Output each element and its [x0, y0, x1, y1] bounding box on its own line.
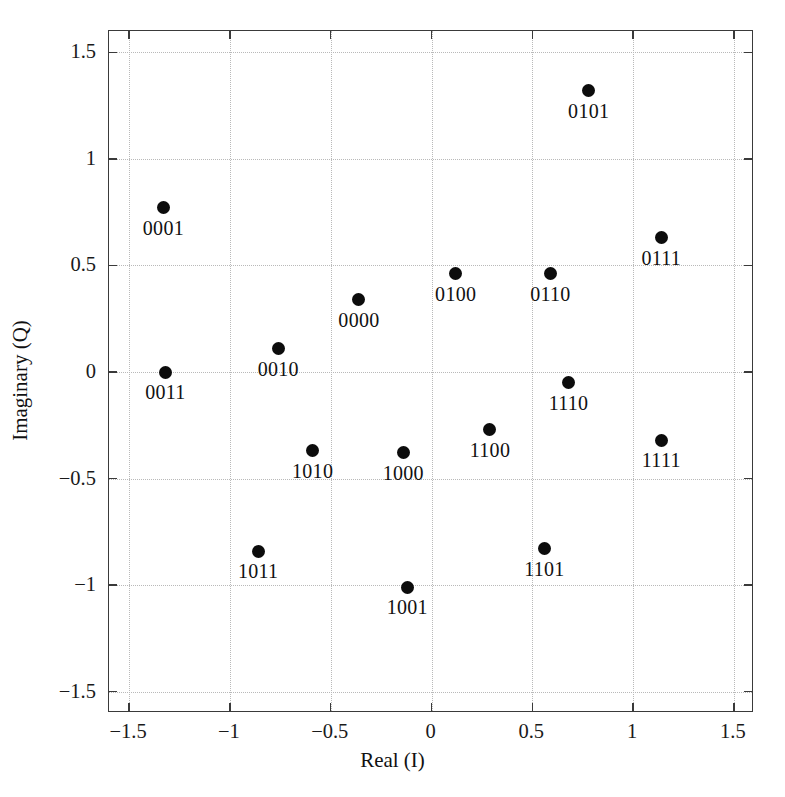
- data-point: [655, 434, 668, 447]
- x-axis-tick: [229, 703, 230, 711]
- x-axis-tick: [532, 703, 533, 711]
- data-point-label: 1001: [387, 596, 428, 619]
- gridline-horizontal: [109, 52, 752, 53]
- y-axis-tick: [109, 158, 117, 159]
- data-point-label: 1101: [524, 558, 564, 581]
- x-axis-tick: [431, 31, 432, 39]
- x-tick-label: 1: [627, 720, 637, 743]
- y-axis-tick: [109, 265, 117, 266]
- plot-area: 0101000101110100011000000010001111101100…: [108, 30, 753, 712]
- data-point: [401, 581, 414, 594]
- data-point: [582, 84, 595, 97]
- data-point: [538, 542, 551, 555]
- data-point-label: 1111: [642, 449, 681, 472]
- data-point: [562, 376, 575, 389]
- gridline-vertical: [230, 31, 231, 711]
- x-axis-tick: [128, 31, 129, 39]
- y-axis-tick: [744, 478, 752, 479]
- gridline-vertical: [432, 31, 433, 711]
- data-point-label: 1000: [383, 462, 424, 485]
- y-axis-tick: [744, 265, 752, 266]
- x-axis-tick: [532, 31, 533, 39]
- x-tick-label: 0: [425, 720, 435, 743]
- data-point: [306, 444, 319, 457]
- data-point-label: 0110: [530, 283, 570, 306]
- x-axis-tick: [330, 31, 331, 39]
- y-axis-tick: [744, 691, 752, 692]
- data-point: [655, 231, 668, 244]
- data-point-label: 0000: [338, 309, 379, 332]
- y-axis-tick: [109, 691, 117, 692]
- data-point-label: 1100: [470, 439, 510, 462]
- data-point-label: 0011: [145, 381, 185, 404]
- gridline-horizontal: [109, 372, 752, 373]
- y-axis-tick: [744, 371, 752, 372]
- x-axis-tick: [632, 31, 633, 39]
- data-point: [159, 366, 172, 379]
- y-axis-tick: [744, 158, 752, 159]
- x-axis-tick: [128, 703, 129, 711]
- y-axis-tick: [109, 52, 117, 53]
- gridline-horizontal: [109, 479, 752, 480]
- y-axis-tick: [109, 584, 117, 585]
- x-axis-title: Real (I): [0, 748, 785, 773]
- data-point: [252, 545, 265, 558]
- y-axis-tick: [744, 52, 752, 53]
- data-point-label: 0111: [641, 247, 681, 270]
- data-point-label: 1010: [292, 460, 333, 483]
- x-axis-tick: [431, 703, 432, 711]
- y-axis-tick: [109, 478, 117, 479]
- y-axis-title: Imaginary (Q): [8, 181, 33, 581]
- x-axis-tick: [632, 703, 633, 711]
- data-point-label: 1110: [549, 392, 589, 415]
- y-axis-tick: [109, 371, 117, 372]
- x-axis-tick: [733, 31, 734, 39]
- gridline-vertical: [331, 31, 332, 711]
- x-axis-tick: [229, 31, 230, 39]
- data-point: [544, 267, 557, 280]
- gridline-horizontal: [109, 585, 752, 586]
- gridline-vertical: [129, 31, 130, 711]
- data-point: [352, 293, 365, 306]
- y-axis-tick: [744, 584, 752, 585]
- data-point-label: 0100: [435, 283, 476, 306]
- data-point-label: 0101: [568, 100, 609, 123]
- x-tick-label: −1: [218, 720, 240, 743]
- x-axis-tick: [733, 703, 734, 711]
- data-point: [397, 446, 410, 459]
- gridline-vertical: [734, 31, 735, 711]
- gridline-horizontal: [109, 692, 752, 693]
- data-point-label: 0010: [258, 358, 299, 381]
- x-tick-label: 0.5: [518, 720, 544, 743]
- x-tick-label: −0.5: [311, 720, 348, 743]
- x-axis-tick: [330, 703, 331, 711]
- constellation-diagram-figure: 0101000101110100011000000010001111101100…: [0, 0, 785, 797]
- x-tick-label: 1.5: [720, 720, 746, 743]
- y-axis-title-wrap: Imaginary (Q): [0, 0, 40, 797]
- data-point-label: 0001: [143, 217, 184, 240]
- data-point: [449, 267, 462, 280]
- data-point: [272, 342, 285, 355]
- data-point-label: 1011: [238, 560, 278, 583]
- x-tick-label: −1.5: [110, 720, 147, 743]
- gridline-horizontal: [109, 159, 752, 160]
- gridline-vertical: [532, 31, 533, 711]
- gridline-vertical: [633, 31, 634, 711]
- data-point: [483, 423, 496, 436]
- data-point: [157, 201, 170, 214]
